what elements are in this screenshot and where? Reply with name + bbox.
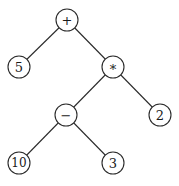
node-minus: − [55, 104, 77, 126]
edges [19, 20, 160, 163]
node-label: * [110, 62, 117, 77]
node-label: 10 [11, 156, 26, 170]
node-label: − [61, 108, 72, 123]
node-times: * [102, 56, 124, 78]
node-two: 2 [149, 104, 171, 126]
expression-tree: + 5 * − 2 10 3 [0, 0, 179, 186]
node-label: + [62, 13, 73, 28]
node-plus: + [56, 9, 78, 31]
node-three: 3 [102, 152, 124, 174]
node-label: 3 [109, 156, 117, 171]
node-ten: 10 [8, 152, 30, 174]
node-five: 5 [8, 56, 30, 78]
node-label: 5 [15, 60, 23, 75]
node-label: 2 [156, 108, 164, 123]
